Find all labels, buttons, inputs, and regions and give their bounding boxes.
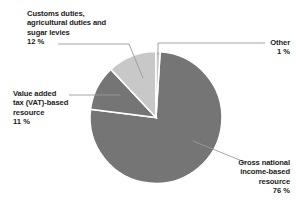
pie-label-vat-based-resource-line1: Value added [13, 89, 68, 98]
pie-label-gross-national-income-value: 76 % [238, 186, 290, 195]
pie-label-customs-duties-value: 12 % [27, 37, 106, 46]
pie-label-vat-based-resource: Value added tax (VAT)-based resource 11 … [13, 89, 68, 127]
pie-label-gross-national-income-line1: Gross national [238, 158, 290, 167]
pie-label-customs-duties-line2: agricultural duties and [27, 18, 106, 27]
pie-label-customs-duties: Customs duties, agricultural duties and … [27, 9, 106, 47]
pie-label-vat-based-resource-value: 11 % [13, 117, 68, 126]
pie-label-vat-based-resource-line2: tax (VAT)-based [13, 98, 68, 107]
pie-chart: Customs duties, agricultural duties and … [0, 0, 296, 214]
pie-label-vat-based-resource-line3: resource [13, 108, 68, 117]
pie-label-other-value: 1 % [270, 47, 290, 56]
pie-label-other: Other 1 % [270, 38, 290, 57]
pie-label-customs-duties-line3: sugar levies [27, 28, 106, 37]
pie-label-gross-national-income: Gross national income-based resource 76 … [238, 158, 290, 196]
pie-label-gross-national-income-line3: resource [238, 177, 290, 186]
pie-label-other-line1: Other [270, 38, 290, 47]
pie-label-gross-national-income-line2: income-based [238, 167, 290, 176]
pie-label-customs-duties-line1: Customs duties, [27, 9, 106, 18]
